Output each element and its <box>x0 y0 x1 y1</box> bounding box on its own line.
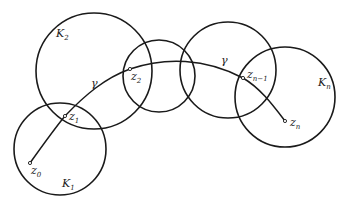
label-gamma-1: γ <box>91 77 98 90</box>
label-point-zn-1: zn−1 <box>246 68 268 83</box>
label-point-z0: z0 <box>30 164 42 179</box>
point-zn <box>283 119 286 122</box>
disk-kn <box>235 47 335 147</box>
label-point-z2: z2 <box>130 70 142 85</box>
point-z1 <box>63 114 66 117</box>
disk-k1 <box>14 103 106 195</box>
label-point-z1: z1 <box>68 110 79 125</box>
label-k1: K1 <box>61 177 75 192</box>
disk-chain-diagram: K1K2Knz0z1z2zn−1znγγ <box>0 0 345 205</box>
label-gamma-2: γ <box>221 54 228 67</box>
label-kn: Kn <box>317 76 331 91</box>
label-point-zn: zn <box>289 116 301 131</box>
point-zn-1 <box>241 76 244 79</box>
disks <box>14 13 335 195</box>
label-k2: K2 <box>55 27 69 42</box>
labels: K1K2Knz0z1z2zn−1znγγ <box>30 27 331 192</box>
